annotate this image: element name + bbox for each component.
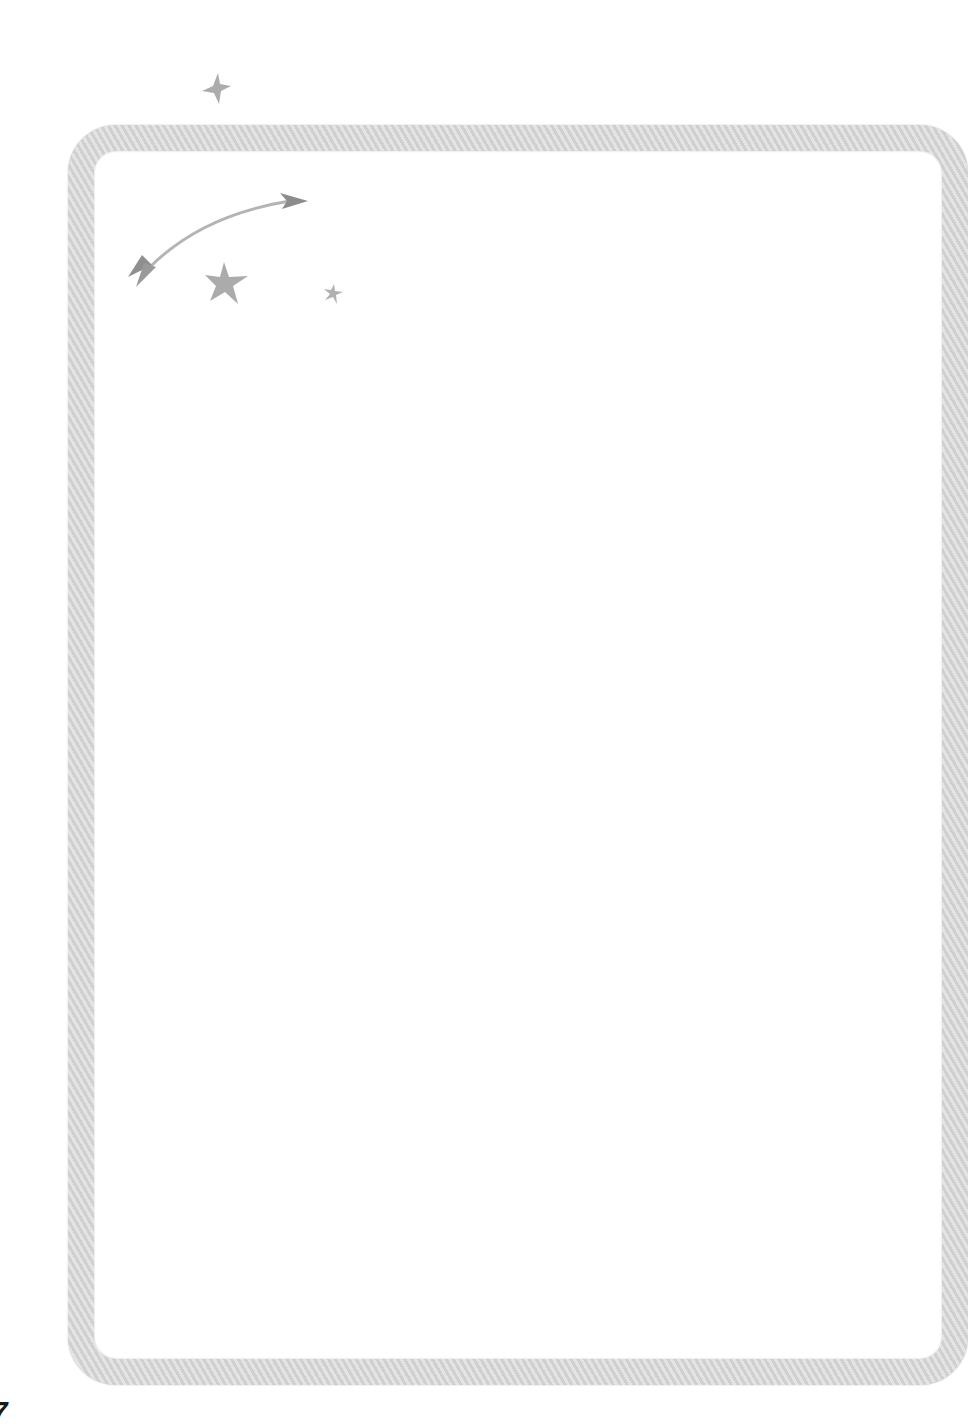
star-icon xyxy=(198,70,234,106)
page-number: 7 xyxy=(0,1398,8,1426)
blank-writing-area xyxy=(100,320,900,1350)
star-icon xyxy=(204,260,250,306)
star-icon xyxy=(322,283,344,305)
